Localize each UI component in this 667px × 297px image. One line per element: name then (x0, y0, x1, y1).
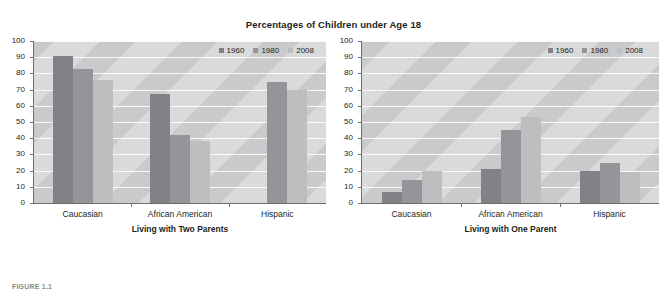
bar-hispanic-1980[interactable] (600, 163, 620, 204)
y-axis-tick-label: 40 (16, 134, 25, 142)
legend-swatch-icon (219, 48, 224, 53)
x-axis-title: Living with One Parent (362, 224, 659, 234)
x-axis-line (33, 203, 326, 204)
bar-caucasian-1960[interactable] (53, 56, 73, 203)
bar-african-american-1960[interactable] (150, 94, 170, 203)
bar-african-american-2008[interactable] (190, 141, 210, 203)
y-axis-tick (30, 122, 33, 123)
figure-container: Percentages of Children under Age 18 100… (0, 0, 667, 297)
y-axis-tick-label: 80 (344, 69, 353, 77)
axis-area: 1009080706050403020100 196019802008 (6, 41, 328, 221)
bar-hispanic-2008[interactable] (287, 90, 307, 203)
legend-label: 2008 (296, 46, 314, 55)
y-axis-tick (358, 41, 361, 42)
y-axis-tick (358, 73, 361, 74)
legend-item[interactable]: 1960 (548, 46, 574, 55)
x-axis-line (361, 203, 659, 204)
legend-item[interactable]: 2008 (288, 46, 314, 55)
legend-item[interactable]: 2008 (617, 46, 643, 55)
bar-caucasian-1960[interactable] (382, 192, 402, 203)
bar-caucasian-1980[interactable] (73, 69, 93, 203)
y-axis-tick-label: 40 (344, 134, 353, 142)
y-axis-tick (30, 154, 33, 155)
y-axis-tick-label: 20 (16, 167, 25, 175)
category-label: Caucasian (362, 209, 461, 219)
y-axis-tick-label: 100 (340, 37, 353, 45)
bar-african-american-2008[interactable] (521, 117, 541, 203)
bar-caucasian-1980[interactable] (402, 180, 422, 203)
legend-label: 1960 (227, 46, 245, 55)
y-axis-tick (30, 73, 33, 74)
y-axis-tick (30, 203, 33, 204)
category-label: Caucasian (34, 209, 131, 219)
y-axis-labels: 1009080706050403020100 (6, 41, 30, 203)
category-label: African American (131, 209, 228, 219)
legend: 196019802008 (548, 46, 643, 55)
y-axis-tick (30, 41, 33, 42)
bar-caucasian-2008[interactable] (93, 80, 113, 203)
figure-caption: FIGURE 1.1 (12, 283, 52, 290)
y-axis-tick (358, 154, 361, 155)
legend-swatch-icon (548, 48, 553, 53)
x-axis-tick (461, 204, 462, 207)
y-axis-tick-label: 30 (344, 150, 353, 158)
bars-layer (362, 41, 659, 203)
bar-african-american-1980[interactable] (170, 135, 190, 203)
y-axis-tick (30, 57, 33, 58)
y-axis-tick (30, 90, 33, 91)
y-axis-tick-label: 90 (16, 53, 25, 61)
y-axis-line (361, 41, 362, 204)
y-axis-tick-label: 90 (344, 53, 353, 61)
y-axis-tick-label: 50 (16, 118, 25, 126)
bar-hispanic-2008[interactable] (620, 172, 640, 203)
y-axis-tick (30, 106, 33, 107)
y-axis-tick-label: 80 (16, 69, 25, 77)
legend-item[interactable]: 1980 (253, 46, 279, 55)
y-axis-tick-label: 100 (12, 37, 25, 45)
y-axis-tick (358, 106, 361, 107)
y-axis-tick (358, 138, 361, 139)
x-axis-title: Living with Two Parents (34, 224, 326, 234)
category-label: Hispanic (229, 209, 326, 219)
y-axis-tick-label: 70 (344, 86, 353, 94)
category-label: African American (461, 209, 560, 219)
legend-swatch-icon (288, 48, 293, 53)
y-axis-line (33, 41, 34, 204)
x-axis-tick (560, 204, 561, 207)
y-axis-tick-label: 10 (16, 183, 25, 191)
legend-label: 1980 (261, 46, 279, 55)
y-axis-tick (30, 138, 33, 139)
bar-african-american-1960[interactable] (481, 169, 501, 203)
bar-caucasian-2008[interactable] (422, 171, 442, 203)
axis-area: 1009080706050403020100 196019802008 (334, 41, 661, 221)
y-axis-tick (30, 187, 33, 188)
legend-label: 1960 (556, 46, 574, 55)
legend-swatch-icon (253, 48, 258, 53)
plot-area (34, 41, 326, 203)
y-axis-tick (358, 122, 361, 123)
y-axis-tick-label: 20 (344, 167, 353, 175)
y-axis-tick-label: 50 (344, 118, 353, 126)
y-axis-tick-label: 60 (344, 102, 353, 110)
x-axis-tick (229, 204, 230, 207)
x-axis-tick (131, 204, 132, 207)
y-axis-tick (358, 203, 361, 204)
legend-item[interactable]: 1960 (219, 46, 245, 55)
bar-hispanic-1980[interactable] (267, 82, 287, 204)
y-axis-tick (358, 90, 361, 91)
legend-label: 2008 (625, 46, 643, 55)
y-axis-tick-label: 70 (16, 86, 25, 94)
category-labels: CaucasianAfrican AmericanHispanic (34, 209, 326, 223)
bar-african-american-1980[interactable] (501, 130, 521, 203)
legend: 196019802008 (219, 46, 314, 55)
chart-panel-two-parents: 1009080706050403020100 196019802008 Cauc… (6, 41, 328, 260)
bar-hispanic-1960[interactable] (580, 171, 600, 203)
legend-swatch-icon (582, 48, 587, 53)
y-axis-tick (30, 171, 33, 172)
legend-item[interactable]: 1980 (582, 46, 608, 55)
plot-area (362, 41, 659, 203)
y-axis-tick-label: 10 (344, 183, 353, 191)
category-labels: CaucasianAfrican AmericanHispanic (362, 209, 659, 223)
y-axis-tick-label: 0 (21, 199, 25, 207)
legend-swatch-icon (617, 48, 622, 53)
